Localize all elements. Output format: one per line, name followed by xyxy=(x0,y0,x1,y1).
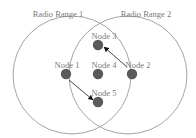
node2-dot xyxy=(127,69,137,79)
radio-range-1-label: Radio Range 1 xyxy=(33,9,84,19)
node5-label: Node 5 xyxy=(92,88,117,98)
node4-label: Node 4 xyxy=(92,60,118,70)
node1-dot xyxy=(61,69,71,79)
node3-label: Node 3 xyxy=(92,31,117,41)
node4-dot xyxy=(93,69,103,79)
radio-range-diagram: Radio Range 1Radio Range 2Node 1Node 2No… xyxy=(0,0,196,138)
node3-dot xyxy=(93,40,103,50)
arrow-node1-to-node5 xyxy=(69,80,93,100)
node1-label: Node 1 xyxy=(55,60,80,70)
node5-dot xyxy=(93,97,103,107)
radio-range-2-label: Radio Range 2 xyxy=(121,9,172,19)
node2-label: Node 2 xyxy=(126,60,151,70)
